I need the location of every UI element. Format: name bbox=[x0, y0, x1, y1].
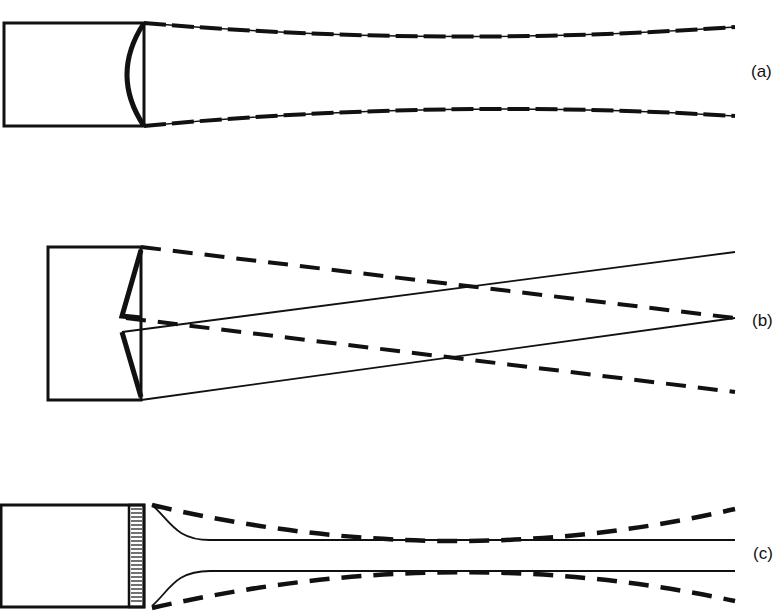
panel-c bbox=[1, 505, 735, 608]
panel-b-ray-dashed-upper bbox=[141, 247, 735, 318]
panel-b-ray-solid-upper bbox=[122, 252, 735, 332]
panel-c-grating-hatch bbox=[131, 509, 142, 601]
panel-b-source-box bbox=[48, 247, 141, 400]
panel-a-beam-top-dashed bbox=[144, 23, 735, 37]
panel-c-label: (c) bbox=[753, 544, 773, 564]
panel-c-envelope-top-dashed bbox=[152, 505, 735, 541]
panel-b bbox=[48, 247, 735, 400]
panel-b-wedge-reflector-top bbox=[122, 250, 141, 318]
panel-b-wedge-reflector-bottom bbox=[122, 332, 141, 397]
panel-c-core-top-solid bbox=[152, 505, 735, 540]
panel-a bbox=[4, 23, 735, 126]
panel-b-label: (b) bbox=[752, 311, 773, 331]
panel-c-envelope-bottom-dashed bbox=[152, 572, 735, 608]
panel-c-core-bottom-solid bbox=[152, 571, 735, 606]
panel-a-curved-lens bbox=[127, 23, 144, 126]
panel-c-source-box bbox=[1, 505, 144, 607]
panel-c-grating-frame bbox=[129, 505, 144, 607]
diagram-canvas bbox=[0, 0, 777, 616]
panel-a-label: (a) bbox=[751, 62, 772, 82]
panel-b-ray-dashed-lower bbox=[126, 318, 735, 392]
panel-a-source-box bbox=[4, 23, 144, 126]
